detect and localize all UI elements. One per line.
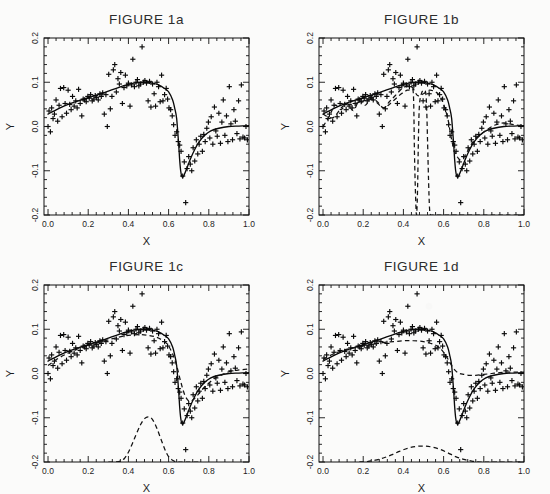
x-tick-label: 0.6 [438, 219, 450, 229]
x-axis-label: X [143, 482, 151, 494]
dashed-curve [108, 417, 198, 462]
x-axis-label: X [418, 235, 426, 247]
x-tick-label: 0.6 [438, 466, 450, 476]
y-tick-label: 0.1 [305, 323, 315, 335]
y-tick-label: -0.1 [30, 163, 40, 178]
x-tick-label: 0.4 [397, 219, 409, 229]
solid-curve [48, 82, 249, 177]
y-tick-label: 0.2 [305, 32, 315, 44]
plot-frame [44, 38, 249, 215]
x-tick-label: 0.6 [163, 219, 175, 229]
x-tick-label: 0.0 [317, 466, 329, 476]
y-axis-label: Y [279, 369, 291, 377]
y-tick-label: -0.1 [305, 410, 315, 425]
panel-title: FIGURE 1b [384, 12, 459, 27]
y-axis-ticks: -0.2-0.10.00.10.2 [30, 279, 249, 470]
x-tick-label: 0.6 [163, 466, 175, 476]
y-tick-label: 0.1 [30, 76, 40, 88]
y-tick-label: 0.0 [305, 120, 315, 132]
y-axis-label: Y [279, 122, 291, 130]
solid-curve [323, 329, 524, 424]
y-tick-label: -0.2 [305, 454, 315, 469]
plot-area [320, 291, 525, 462]
x-tick-label: 0.2 [82, 219, 94, 229]
y-tick-label: 0.1 [30, 323, 40, 335]
y-tick-label: 0.0 [305, 367, 315, 379]
x-tick-label: 0.8 [203, 219, 215, 229]
figure-root: FIGURE 1a0.00.20.40.60.81.0-0.2-0.10.00.… [0, 0, 550, 494]
dashed-curve [48, 335, 249, 402]
plot-frame [44, 285, 249, 462]
y-axis-ticks: -0.2-0.10.00.10.2 [30, 32, 249, 223]
solid-curve [48, 329, 249, 424]
x-tick-label: 0.2 [82, 466, 94, 476]
y-tick-label: -0.1 [305, 163, 315, 178]
panel-1a: FIGURE 1a0.00.20.40.60.81.0-0.2-0.10.00.… [0, 0, 275, 247]
x-axis-label: X [143, 235, 151, 247]
scatter-series [45, 291, 250, 452]
x-axis-label: X [418, 482, 426, 494]
plot-area [320, 44, 525, 215]
panel-title: FIGURE 1a [109, 12, 184, 27]
y-tick-label: -0.1 [30, 410, 40, 425]
solid-curve [323, 82, 524, 177]
x-tick-label: 0.4 [397, 466, 409, 476]
x-tick-label: 0.8 [203, 466, 215, 476]
x-tick-label: 0.2 [357, 466, 369, 476]
y-tick-label: -0.2 [30, 207, 40, 222]
x-axis-ticks: 0.00.20.40.60.81.0 [42, 38, 255, 229]
x-axis-ticks: 0.00.20.40.60.81.0 [317, 38, 530, 229]
y-tick-label: 0.1 [305, 76, 315, 88]
y-tick-label: 0.2 [30, 279, 40, 291]
x-tick-label: 1.0 [243, 219, 255, 229]
dashed-curve [359, 446, 524, 462]
x-tick-label: 0.0 [317, 219, 329, 229]
plot-area [45, 291, 250, 462]
x-tick-label: 0.4 [122, 466, 134, 476]
x-tick-label: 0.8 [478, 219, 490, 229]
plot-area [45, 44, 250, 205]
panel-1d: FIGURE 1d0.00.20.40.60.81.0-0.2-0.10.00.… [275, 247, 550, 494]
x-tick-label: 0.0 [42, 466, 54, 476]
x-axis-ticks: 0.00.20.40.60.81.0 [42, 285, 255, 476]
panel-1c: FIGURE 1c0.00.20.40.60.81.0-0.2-0.10.00.… [0, 247, 275, 494]
dashed-curve [323, 86, 524, 160]
x-tick-label: 1.0 [518, 466, 530, 476]
y-tick-label: 0.2 [30, 32, 40, 44]
x-tick-label: 1.0 [518, 219, 530, 229]
y-axis-label: Y [4, 122, 16, 130]
scatter-series [320, 291, 525, 452]
y-tick-label: 0.2 [305, 279, 315, 291]
x-tick-label: 0.4 [122, 219, 134, 229]
y-tick-label: 0.0 [30, 367, 40, 379]
y-tick-label: -0.2 [305, 207, 315, 222]
x-axis-ticks: 0.00.20.40.60.81.0 [317, 285, 530, 476]
x-tick-label: 1.0 [243, 466, 255, 476]
dashed-curve [323, 90, 524, 216]
scatter-series [45, 44, 250, 205]
plot-frame [319, 38, 524, 215]
panel-title: FIGURE 1d [384, 259, 459, 274]
panel-1b: FIGURE 1b0.00.20.40.60.81.0-0.2-0.10.00.… [275, 0, 550, 247]
x-tick-label: 0.8 [478, 466, 490, 476]
y-tick-label: -0.2 [30, 454, 40, 469]
x-tick-label: 0.2 [357, 219, 369, 229]
y-axis-label: Y [4, 369, 16, 377]
y-tick-label: 0.0 [30, 120, 40, 132]
x-tick-label: 0.0 [42, 219, 54, 229]
panel-title: FIGURE 1c [109, 259, 183, 274]
